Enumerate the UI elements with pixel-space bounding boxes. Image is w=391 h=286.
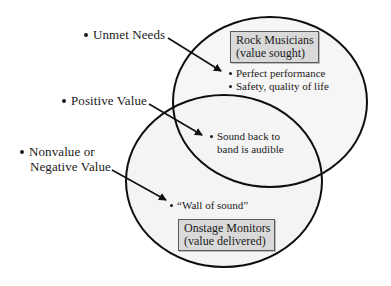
bullet-icon xyxy=(229,72,232,75)
rock-musicians-item-1: Perfect performance xyxy=(229,67,325,80)
bullet-icon xyxy=(229,85,232,88)
callout-text: Nonvalue or xyxy=(29,144,95,159)
set-subtitle: (value delivered) xyxy=(184,235,270,248)
callout-text-line2: Negative Value xyxy=(20,159,111,174)
item-text: Perfect performance xyxy=(236,67,325,79)
callout-positive-value: Positive Value xyxy=(62,93,147,108)
intersection-item: Sound back to band is audible xyxy=(210,130,284,156)
bullet-icon xyxy=(170,204,173,207)
callout-text: Positive Value xyxy=(71,93,147,108)
callout-negative-value: Nonvalue or Negative Value xyxy=(20,144,111,174)
bullet-icon xyxy=(62,99,66,103)
item-text: Safety, quality of life xyxy=(236,80,329,92)
set-subtitle: (value sought) xyxy=(236,47,314,60)
onstage-monitors-item-1: “Wall of sound” xyxy=(170,199,248,212)
item-text-line2: band is audible xyxy=(210,143,284,156)
venn-diagram: Unmet Needs Positive Value Nonvalue or N… xyxy=(0,0,391,286)
bullet-icon xyxy=(20,150,24,154)
onstage-monitors-title-box: Onstage Monitors (value delivered) xyxy=(178,219,275,251)
callout-text: Unmet Needs xyxy=(93,27,165,42)
item-text: “Wall of sound” xyxy=(177,199,248,211)
callout-unmet-needs: Unmet Needs xyxy=(84,27,165,42)
rock-musicians-item-2: Safety, quality of life xyxy=(229,80,329,93)
bullet-icon xyxy=(84,33,88,37)
rock-musicians-title-box: Rock Musicians (value sought) xyxy=(230,31,319,63)
bullet-icon xyxy=(210,135,213,138)
item-text: Sound back to xyxy=(217,130,280,142)
